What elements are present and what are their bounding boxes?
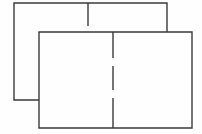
diagram-canvas: Overlapping rectangles line drawing Back…	[0, 0, 202, 134]
canvas-background	[0, 0, 202, 134]
line-drawing-svg	[0, 0, 202, 134]
